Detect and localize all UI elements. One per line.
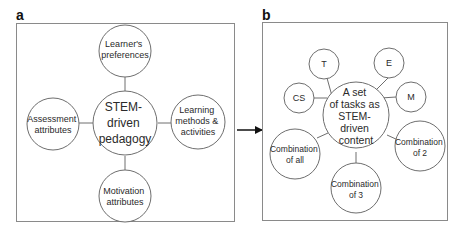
node-learners-preferences: Learner's preferences — [99, 25, 151, 77]
svg-text:Learner's preferences: Learner's preferences — [101, 39, 149, 60]
node-combination-of-2: Combination of 2 — [395, 121, 445, 171]
panel-b: b A set of tasks as STEM- driven content… — [262, 7, 448, 221]
node-e: E — [374, 48, 404, 78]
svg-text:Learning methods &: Learning methods & activities — [175, 105, 221, 137]
node-combination-of-3: Combination of 3 — [331, 163, 381, 213]
panel-b-letter: b — [262, 7, 271, 23]
node-stem-driven-pedagogy: STEM- driven pedagogy — [93, 91, 157, 155]
svg-text:M: M — [407, 92, 415, 102]
diagram-canvas: a STEM- driven pedagogy Learner's prefer… — [0, 0, 461, 232]
panel-a: a STEM- driven pedagogy Learner's prefer… — [16, 7, 235, 222]
node-motivation-attributes: Motivation attributes — [99, 170, 151, 222]
node-m: M — [396, 82, 426, 112]
svg-text:E: E — [386, 58, 392, 68]
node-assessment-attributes: Assessment attributes — [27, 98, 79, 150]
edge-b-comb-all — [317, 133, 328, 138]
svg-text:Motivation attributes: Motivation attributes — [103, 186, 147, 207]
svg-text:T: T — [321, 59, 327, 69]
node-t: T — [309, 49, 339, 79]
node-learning-methods-activities: Learning methods & activities — [171, 95, 225, 149]
svg-text:CS: CS — [293, 93, 306, 103]
svg-text:Assessment attributes: Assessment attributes — [27, 114, 79, 135]
panel-a-letter: a — [16, 7, 24, 23]
node-task-set: A set of tasks as STEM- driven content — [323, 82, 389, 148]
node-cs: CS — [284, 83, 314, 113]
node-combination-of-all: Combination of all — [270, 129, 320, 179]
